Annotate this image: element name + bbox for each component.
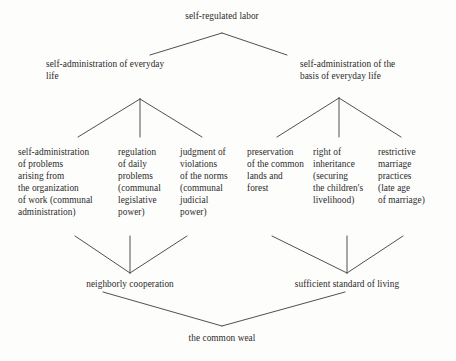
edge-leaf6-to-synright <box>347 236 403 273</box>
edge-leaf1-to-synleft <box>75 236 130 273</box>
diagram-canvas: self-regulated labor self-administration… <box>0 0 456 361</box>
edge-l2left-to-leaf3 <box>140 99 202 137</box>
edge-leaf3-to-synleft <box>130 236 187 273</box>
edge-l2left-to-leaf1 <box>78 99 140 137</box>
node-leaf-regulation-of-daily-problems: regulation of daily problems (communal l… <box>118 146 180 218</box>
node-the-common-weal: the common weal <box>189 332 256 344</box>
edge-root-to-right <box>222 33 287 55</box>
edge-leaf4-to-synright <box>272 236 347 273</box>
edge-l2right-to-leaf6 <box>339 98 401 137</box>
edge-synleft-to-conclusion <box>103 292 222 326</box>
edge-synright-to-conclusion <box>222 292 345 326</box>
node-leaf-self-administration-of-problems: self-administration of problems arising … <box>18 146 118 218</box>
node-sufficient-standard-of-living: sufficient standard of living <box>295 278 399 290</box>
node-root: self-regulated labor <box>185 10 259 22</box>
edge-root-to-left <box>150 33 222 55</box>
node-leaf-right-of-inheritance: right of inheritance (securing the child… <box>313 146 379 206</box>
edge-l2right-to-leaf4 <box>277 98 339 137</box>
node-leaf-restrictive-marriage-practices: restrictive marriage practices (late age… <box>378 146 446 206</box>
node-self-administration-everyday-life: self-administration of everyday life <box>46 58 221 82</box>
node-self-administration-basis-everyday-life: self-administration of the basis of ever… <box>300 58 450 82</box>
node-leaf-preservation-of-common-lands: preservation of the common lands and for… <box>247 146 315 194</box>
node-leaf-judgment-of-violations: judgment of violations of the norms (com… <box>180 146 246 218</box>
node-neighborly-cooperation: neighborly cooperation <box>86 278 174 290</box>
